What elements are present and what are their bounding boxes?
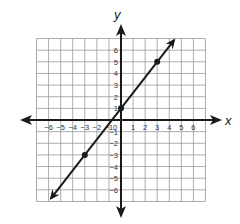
data-point: [82, 152, 88, 158]
y-tick-label: −4: [109, 163, 118, 172]
y-tick-label: 4: [114, 69, 118, 78]
y-tick-label: 2: [114, 93, 118, 102]
x-tick-label: −3: [81, 123, 90, 132]
x-tick-label: 1: [131, 123, 135, 132]
x-tick-label: −4: [68, 123, 77, 132]
y-tick-label: 6: [114, 46, 118, 55]
x-tick-label: −5: [56, 123, 65, 132]
x-tick-label: 6: [191, 123, 195, 132]
y-tick-label: −5: [109, 174, 118, 183]
x-tick-label: −2: [93, 123, 102, 132]
y-tick-label: −2: [109, 139, 118, 148]
data-point: [154, 59, 160, 65]
y-tick-label: −6: [109, 186, 118, 195]
y-tick-label: −3: [109, 151, 118, 160]
y-tick-label: 5: [114, 58, 118, 67]
x-tick-label: 5: [179, 123, 183, 132]
x-tick-label: 2: [143, 123, 147, 132]
x-axis-label: x: [224, 113, 232, 128]
x-tick-label: 4: [167, 123, 171, 132]
y-tick-label: −1: [109, 128, 118, 137]
y-axis-label: y: [113, 7, 122, 22]
x-tick-label: −6: [44, 123, 53, 132]
x-tick-label: 3: [155, 123, 159, 132]
coordinate-plane: x y −6−5−4−3−2−10123456654321−1−2−3−4−5−…: [0, 0, 240, 224]
data-point: [118, 105, 124, 111]
y-tick-label: 3: [114, 81, 118, 90]
